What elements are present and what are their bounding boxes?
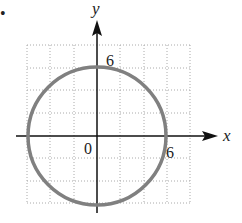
y-axis-label: y	[90, 0, 100, 18]
y-tick-label: 6	[106, 52, 114, 69]
circle-graph: • y x 6 6 0	[0, 0, 242, 223]
bullet: •	[0, 5, 6, 22]
x-tick-label: 6	[166, 144, 174, 161]
origin-label: 0	[84, 140, 92, 157]
x-axis-label: x	[222, 126, 231, 145]
